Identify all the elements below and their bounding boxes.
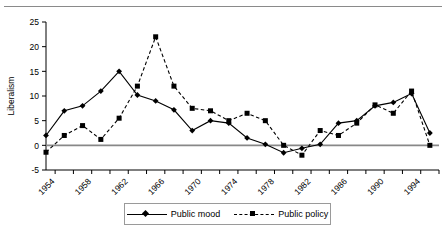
- x-tick-label: 1974: [219, 176, 240, 197]
- line-chart: -505101520251954195819621966197019741978…: [0, 10, 446, 200]
- data-point-marker: [135, 84, 140, 89]
- y-tick-label: 0: [34, 141, 39, 151]
- data-point-marker: [263, 118, 268, 123]
- data-point-marker: [299, 145, 305, 151]
- x-tick-label: 1990: [365, 176, 386, 197]
- top-divider-rule: [4, 6, 442, 7]
- data-point-marker: [409, 89, 414, 94]
- data-point-marker: [62, 133, 67, 138]
- x-tick-label: 1994: [402, 176, 423, 197]
- x-tick-label: 1978: [255, 176, 276, 197]
- data-point-marker: [153, 98, 159, 104]
- data-point-marker: [336, 133, 341, 138]
- y-tick-label: 10: [30, 91, 40, 101]
- data-point-marker: [281, 143, 286, 148]
- data-point-marker: [262, 141, 268, 147]
- x-tick-label: 1966: [146, 176, 167, 197]
- data-point-marker: [208, 108, 213, 113]
- legend-label-public-mood: Public mood: [171, 209, 221, 219]
- y-tick-label: 15: [30, 67, 40, 77]
- data-point-marker: [354, 121, 359, 126]
- data-point-marker: [373, 102, 378, 107]
- legend-label-public-policy: Public policy: [278, 209, 328, 219]
- figure: -505101520251954195819621966197019741978…: [0, 0, 446, 236]
- data-point-marker: [391, 111, 396, 116]
- x-tick-label: 1958: [73, 176, 94, 197]
- public-policy-line-sample-icon: [234, 209, 274, 219]
- chart-legend: Public mood Public policy: [124, 203, 331, 225]
- y-tick-label: 25: [30, 17, 40, 27]
- data-point-marker: [98, 137, 103, 142]
- data-point-marker: [318, 128, 323, 133]
- series-line-public-mood: [46, 71, 430, 152]
- public-mood-line-sample-icon: [127, 209, 167, 219]
- series-line-public-policy: [46, 37, 430, 155]
- legend-item-public-mood: Public mood: [127, 209, 221, 219]
- x-tick-label: 1954: [36, 176, 57, 197]
- data-point-marker: [208, 118, 214, 124]
- data-point-marker: [44, 150, 49, 155]
- data-point-marker: [117, 116, 122, 121]
- x-tick-label: 1986: [329, 176, 350, 197]
- data-point-marker: [281, 150, 287, 156]
- data-point-marker: [80, 123, 85, 128]
- data-point-marker: [427, 130, 433, 136]
- y-axis-title: Liberalism: [6, 77, 16, 116]
- data-point-marker: [171, 84, 176, 89]
- data-point-marker: [245, 111, 250, 116]
- y-tick-label: 20: [30, 42, 40, 52]
- data-point-marker: [153, 34, 158, 39]
- data-point-marker: [226, 118, 231, 123]
- x-tick-label: 1962: [109, 176, 130, 197]
- chart-plot-area: -505101520251954195819621966197019741978…: [0, 10, 446, 200]
- data-point-marker: [427, 143, 432, 148]
- y-tick-label: -5: [31, 165, 39, 175]
- x-tick-label: 1982: [292, 176, 313, 197]
- legend-item-public-policy: Public policy: [234, 209, 328, 219]
- data-point-marker: [299, 153, 304, 158]
- x-tick-label: 1970: [182, 176, 203, 197]
- y-tick-label: 5: [34, 116, 39, 126]
- data-point-marker: [190, 106, 195, 111]
- data-point-marker: [390, 100, 396, 106]
